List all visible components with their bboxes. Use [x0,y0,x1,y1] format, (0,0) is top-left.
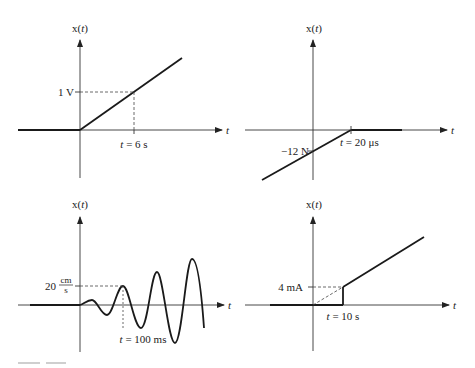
x-marker-label: t = 20 μs [340,136,379,148]
signal-growing-sinusoid [80,259,204,343]
signal-ramp [343,237,424,287]
svg-text:cm: cm [61,275,72,285]
y-axis-label: x(t) [306,22,322,35]
x-marker-label: t = 10 s [327,310,360,322]
y-marker-label: 4 mA [278,281,303,293]
y-axis-label: x(t) [306,198,322,211]
x-axis-label: t [226,124,230,136]
figure-canvas: x(t) t 1 V t = 6 s x(t) t −12 N t = 20 μ… [0,0,475,368]
x-axis-label: t [451,124,455,136]
caption-fragment [18,362,40,364]
dashed-ramp-extension [313,287,343,305]
y-marker-label: −12 N [281,145,309,157]
svg-text:s: s [64,285,68,295]
x-marker-label: t = 6 s [120,138,147,150]
y-axis-label: x(t) [72,22,88,35]
svg-text:20: 20 [45,280,57,292]
figure-caption-cutoff [18,362,78,368]
y-marker-label: 1 V [58,86,74,98]
y-axis-label: x(t) [72,198,88,211]
panel-top-left: x(t) t 1 V t = 6 s [18,22,230,178]
y-marker-label: 20 cm s [45,275,73,295]
panel-bottom-right: x(t) t 4 mA t = 10 s [245,198,457,351]
panel-top-right: x(t) t −12 N t = 20 μs [245,22,455,180]
x-axis-label: t [228,299,232,311]
caption-fragment [46,362,66,364]
x-marker-label: t = 100 ms [120,333,167,345]
x-axis-label: t [453,299,457,311]
panel-bottom-left: x(t) t 20 cm s t = 100 ms [18,198,232,352]
signal-ramp [80,58,182,130]
